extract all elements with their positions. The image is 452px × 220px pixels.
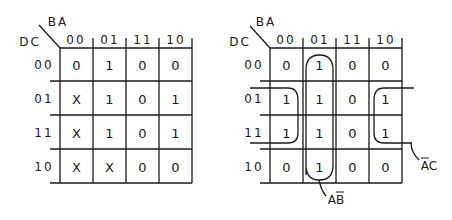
cell: 1 — [282, 93, 291, 106]
cell: 1 — [315, 127, 324, 140]
cell: 0 — [348, 93, 357, 106]
cell: 0 — [138, 161, 147, 174]
cell: 1 — [171, 127, 180, 140]
cell: 1 — [381, 127, 390, 140]
cell: X — [72, 93, 82, 106]
cell: 1 — [105, 127, 114, 140]
cell: 0 — [282, 161, 291, 174]
cell: 1 — [315, 161, 324, 174]
cell: 1 — [315, 93, 324, 106]
col-header: 10 — [376, 34, 395, 47]
row-header: 11 — [34, 127, 53, 140]
group-label-plain: C — [429, 159, 437, 173]
col-header: 01 — [100, 34, 119, 47]
cell: X — [72, 127, 82, 140]
cell: 0 — [348, 59, 357, 72]
cell: 1 — [381, 93, 390, 106]
row-header: 10 — [244, 161, 263, 174]
row-variable-label: DC — [19, 36, 41, 49]
cell: 1 — [282, 127, 291, 140]
cell: X — [105, 161, 115, 174]
group-label-overbar: A — [421, 159, 429, 173]
col-header: 11 — [133, 34, 152, 47]
col-header: 11 — [343, 34, 362, 47]
row-header: 11 — [244, 127, 263, 140]
row-header: 10 — [34, 161, 53, 174]
row-header: 01 — [34, 93, 53, 106]
cell: 0 — [348, 161, 357, 174]
cell: 0 — [171, 161, 180, 174]
group-label-a-bbar: AB — [328, 194, 344, 207]
cell: 0 — [381, 161, 390, 174]
column-variable-label: BA — [48, 16, 68, 29]
karnaugh-map-left: BA DC 00 01 11 10 00 01 11 10 0 1 0 0 X … — [0, 0, 226, 220]
cell: 0 — [171, 59, 180, 72]
cell: 0 — [138, 127, 147, 140]
grid-lines-right — [226, 0, 452, 220]
group-label-overbar: B — [336, 193, 344, 207]
karnaugh-map-right: BA DC 00 01 11 10 00 01 11 10 0 1 0 0 1 … — [226, 0, 452, 220]
col-header: 00 — [276, 34, 295, 47]
cell: 1 — [105, 59, 114, 72]
group-label-plain: A — [328, 193, 336, 207]
row-header: 00 — [244, 59, 263, 72]
cell: 1 — [171, 93, 180, 106]
col-header: 00 — [66, 34, 85, 47]
row-header: 01 — [244, 93, 263, 106]
row-header: 00 — [34, 59, 53, 72]
cell: 0 — [138, 93, 147, 106]
group-label-abar-c: AC — [421, 160, 437, 173]
cell: 0 — [72, 59, 81, 72]
cell: 1 — [315, 59, 324, 72]
cell: 0 — [381, 59, 390, 72]
cell: 0 — [348, 127, 357, 140]
col-header: 01 — [310, 34, 329, 47]
leader-abar-c — [411, 143, 419, 160]
cell: 0 — [138, 59, 147, 72]
column-variable-label: BA — [256, 16, 276, 29]
row-variable-label: DC — [229, 36, 251, 49]
cell: 0 — [282, 59, 291, 72]
col-header: 10 — [166, 34, 185, 47]
cell: 1 — [105, 93, 114, 106]
cell: X — [72, 161, 82, 174]
